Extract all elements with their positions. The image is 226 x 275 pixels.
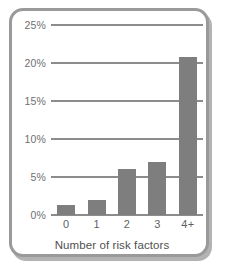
x-axis-title: Number of risk factors bbox=[12, 239, 212, 251]
y-tick-label: 10% bbox=[24, 133, 46, 145]
y-tick-label: 0% bbox=[30, 209, 46, 221]
y-tick-label: 5% bbox=[30, 171, 46, 183]
bar bbox=[179, 57, 197, 215]
chart-frame: 0%5%10%15%20%25% 01234+ Number of risk f… bbox=[9, 8, 209, 257]
gridline: 25% bbox=[51, 24, 203, 26]
bar bbox=[148, 162, 166, 215]
bar bbox=[57, 205, 75, 215]
y-tick-label: 20% bbox=[24, 57, 46, 69]
y-tick-label: 25% bbox=[24, 19, 46, 31]
bar bbox=[88, 200, 106, 215]
x-tick-label: 4+ bbox=[168, 218, 208, 230]
plot-area: 0%5%10%15%20%25% 01234+ bbox=[51, 25, 203, 215]
y-tick-label: 15% bbox=[24, 95, 46, 107]
bar bbox=[118, 169, 136, 215]
